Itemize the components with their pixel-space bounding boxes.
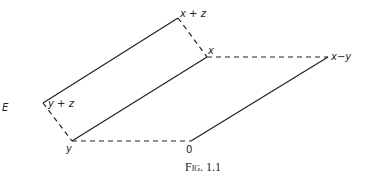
segment-xmy-to-origin (191, 57, 328, 141)
label-y-plus-z: y + z (48, 99, 74, 109)
parallelogram-diagram (0, 0, 370, 181)
dashed-xz-to-x (178, 18, 207, 57)
label-x-minus-y: x−y (331, 52, 351, 62)
segment-x-to-y (72, 57, 207, 141)
segment-xz-to-yz (43, 18, 178, 103)
figure-caption: Fig. 1.1 (185, 161, 221, 173)
label-x: x (208, 46, 214, 56)
figure-canvas: E x + z x x−y y + z y 0 Fig. 1.1 (0, 0, 370, 181)
space-label-e: E (2, 103, 8, 113)
label-y: y (66, 144, 72, 154)
label-origin: 0 (186, 145, 192, 155)
label-x-plus-z: x + z (180, 9, 206, 19)
